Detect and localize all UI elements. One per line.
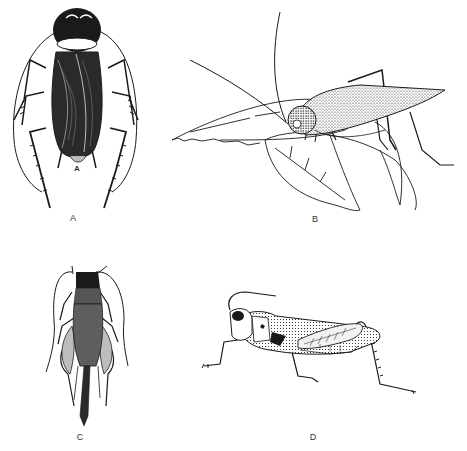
panel-a-cockroach: A — [0, 0, 160, 230]
insect-figure-plate: A A — [0, 0, 467, 451]
panel-c-label: C — [77, 432, 84, 442]
katydid-illustration — [160, 0, 467, 240]
cricket-illustration — [0, 230, 180, 451]
panel-d-label: D — [310, 432, 317, 442]
panel-b-katydid — [160, 0, 467, 240]
cockroach-illustration — [0, 0, 160, 230]
panel-b-label: B — [312, 214, 318, 224]
panel-c-cricket — [0, 230, 180, 451]
panel-a-label: A — [70, 213, 76, 223]
panel-d-grasshopper — [180, 270, 467, 451]
grasshopper-illustration — [180, 270, 467, 451]
panel-a-inner-mark: A — [74, 164, 80, 173]
